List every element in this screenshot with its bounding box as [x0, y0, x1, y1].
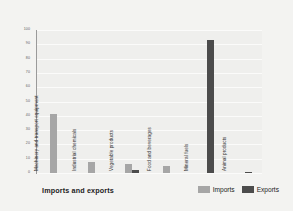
category-label: Mineral fuels: [184, 144, 189, 171]
bar-exports: [132, 170, 139, 173]
legend-swatch: [198, 186, 210, 193]
y-axis-tick-label: 0: [16, 171, 30, 175]
legend-label: Exports: [257, 186, 279, 193]
bar-imports: [125, 164, 132, 173]
bar-imports: [163, 166, 170, 173]
category-label: Industrial chemicals: [72, 129, 77, 171]
bar-group: Animal products: [225, 30, 263, 173]
bar-group: Mineral fuels: [187, 30, 225, 173]
legend-item: Exports: [242, 186, 279, 193]
bar-exports: [207, 40, 214, 173]
category-label: Vegetable products: [109, 130, 114, 171]
y-axis-tick-label: 70: [16, 71, 30, 75]
y-axis-tick-label: 20: [16, 143, 30, 147]
bar-exports: [245, 172, 252, 173]
y-axis-tick-label: 60: [16, 85, 30, 89]
bar-group: Industrial chemicals: [75, 30, 113, 173]
x-axis-title: Imports and exports: [42, 186, 114, 195]
y-axis-tick-label: 80: [16, 57, 30, 61]
category-label: Animal products: [222, 137, 227, 171]
plot-area: Machinery and transport equipmentIndustr…: [36, 30, 262, 174]
category-label: Machinery and transport equipment: [34, 95, 39, 171]
bar-imports: [50, 114, 57, 173]
bar-series-container: Machinery and transport equipmentIndustr…: [37, 30, 262, 173]
y-axis-tick-label: 40: [16, 114, 30, 118]
chart-legend: ImportsExports: [198, 186, 279, 193]
chart-figure: Percentage of total 01020304050607080901…: [0, 0, 293, 211]
y-axis-tick-label: 10: [16, 157, 30, 161]
y-axis-tick-label: 30: [16, 128, 30, 132]
y-axis-tick-label: 50: [16, 100, 30, 104]
gridline: [37, 173, 262, 174]
bar-group: Machinery and transport equipment: [37, 30, 75, 173]
bar-group: Vegetable products: [112, 30, 150, 173]
bar-imports: [88, 162, 95, 173]
legend-swatch: [242, 186, 254, 193]
y-axis-tick-label: 90: [16, 42, 30, 46]
y-axis-tick-label: 100: [16, 28, 30, 32]
legend-item: Imports: [198, 186, 235, 193]
legend-label: Imports: [213, 186, 235, 193]
category-label: Food and beverages: [147, 127, 152, 171]
bar-group: Food and beverages: [150, 30, 188, 173]
